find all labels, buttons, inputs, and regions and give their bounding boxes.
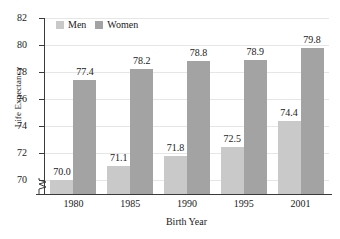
bar-value-label: 78.2	[121, 56, 162, 66]
bar-women-1985	[130, 69, 153, 194]
y-tick-label: 78	[3, 67, 27, 77]
bar-value-label: 77.4	[64, 67, 105, 77]
bar-men-1985	[107, 166, 130, 194]
x-axis-line	[36, 194, 332, 195]
bar-men-2001	[278, 121, 301, 194]
bar-chart: Life Expectancy 70727476788082 70.077.47…	[0, 0, 340, 239]
chart-title-remnant	[0, 0, 340, 7]
y-tick	[39, 126, 44, 127]
legend-label-men: Men	[68, 20, 86, 30]
bar-women-1990	[187, 61, 210, 194]
bar-value-label: 79.8	[292, 35, 333, 45]
legend-item-men: Men	[56, 20, 86, 30]
y-tick	[39, 72, 44, 73]
chart-legend: Men Women	[56, 20, 138, 30]
bar-men-1990	[164, 156, 187, 194]
legend-label-women: Women	[107, 20, 138, 30]
legend-swatch-women	[95, 21, 103, 29]
bar-value-label: 78.9	[235, 47, 276, 57]
bar-women-1995	[244, 60, 267, 194]
y-tick	[39, 45, 44, 46]
y-tick-label: 82	[3, 13, 27, 23]
bar-men-1995	[221, 147, 244, 194]
x-tick-label: 2001	[277, 199, 325, 209]
x-tick-label: 1980	[49, 199, 97, 209]
bar-women-1980	[73, 80, 96, 194]
y-tick-label: 76	[3, 94, 27, 104]
bars-layer: 70.077.471.178.271.878.872.578.974.479.8	[45, 18, 329, 194]
bar-women-2001	[301, 48, 324, 194]
bar-value-label: 78.8	[178, 48, 219, 58]
x-tick-label: 1995	[220, 199, 268, 209]
y-tick-label: 80	[3, 40, 27, 50]
y-tick	[39, 153, 44, 154]
x-axis-title: Birth Year	[44, 217, 329, 227]
x-tick-label: 1985	[106, 199, 154, 209]
y-tick-label: 70	[3, 175, 27, 185]
legend-swatch-men	[56, 21, 64, 29]
legend-item-women: Women	[95, 20, 138, 30]
bar-men-1980	[50, 180, 73, 194]
y-tick	[39, 99, 44, 100]
plot-area: 70727476788082 70.077.471.178.271.878.87…	[44, 18, 329, 194]
y-tick-label: 72	[3, 148, 27, 158]
y-tick	[39, 18, 44, 19]
x-tick-label: 1990	[163, 199, 211, 209]
y-tick-label: 74	[3, 121, 27, 131]
